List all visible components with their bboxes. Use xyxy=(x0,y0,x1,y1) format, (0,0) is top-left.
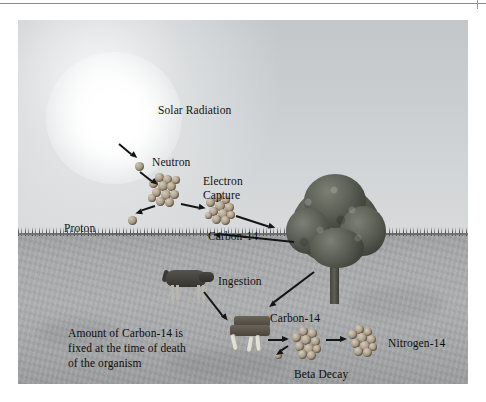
cow-leg xyxy=(171,285,174,300)
cow-leg xyxy=(176,285,179,300)
page-canvas: Solar Radiation Neutron Proton Electron … xyxy=(0,0,486,402)
label-neutron: Neutron xyxy=(152,156,190,170)
label-fixed-note-line3: of the organism xyxy=(68,357,141,371)
tree-foliage-texture xyxy=(286,172,386,272)
carbon-14-nucleus-ground xyxy=(290,326,326,362)
carcass-bone xyxy=(255,335,262,351)
label-fixed-note-line1: Amount of Carbon-14 is xyxy=(68,327,183,341)
figure-panel: Solar Radiation Neutron Proton Electron … xyxy=(18,20,468,384)
page-top-rule xyxy=(0,3,486,4)
carcass-body xyxy=(230,325,270,336)
label-fixed-note-line2: fixed at the time of death xyxy=(68,342,186,356)
carcass-bone xyxy=(230,334,239,351)
cow-leg xyxy=(197,285,200,300)
page-top-tick xyxy=(477,0,478,9)
label-carbon-14-air: Carbon-14 xyxy=(208,230,258,244)
cow-head xyxy=(199,272,214,282)
tree xyxy=(286,172,386,304)
label-carbon-14-ground: Carbon-14 xyxy=(270,312,320,326)
label-ingestion: Ingestion xyxy=(218,275,262,289)
label-solar-radiation: Solar Radiation xyxy=(158,104,231,118)
label-electron-capture-line1: Electron xyxy=(203,175,243,189)
label-nitrogen-14: Nitrogen-14 xyxy=(388,337,445,351)
label-proton: Proton xyxy=(64,222,95,236)
nitrogen-14-nucleus-ground xyxy=(346,324,382,360)
carcass-bone xyxy=(247,336,255,353)
nitrogen-14-nucleus-air xyxy=(146,172,184,210)
label-electron-capture-line2: Capture xyxy=(203,189,240,203)
proton-particle xyxy=(128,216,137,225)
neutron-particle xyxy=(135,162,144,171)
label-beta-decay: Beta Decay xyxy=(294,368,348,382)
